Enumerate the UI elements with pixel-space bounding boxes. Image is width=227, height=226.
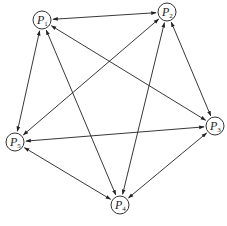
edge-p2-p5 — [23, 19, 158, 135]
edges-layer — [17, 13, 210, 200]
node-p4: P4 — [111, 196, 129, 214]
node-p3: P3 — [206, 117, 224, 135]
edge-p1-p3 — [51, 26, 205, 121]
edge-p1-p4 — [46, 30, 115, 195]
edge-p2-p4 — [123, 23, 165, 195]
network-diagram: P1P2P3P4P5 — [0, 0, 227, 226]
edge-p1-p2 — [53, 13, 156, 20]
edge-p2-p3 — [171, 22, 210, 116]
edge-p3-p4 — [128, 133, 206, 198]
edge-p3-p5 — [26, 127, 204, 141]
node-p1: P1 — [33, 11, 51, 29]
node-p2: P2 — [158, 3, 176, 21]
node-p5: P5 — [6, 133, 24, 151]
edge-p4-p5 — [24, 148, 110, 200]
edge-p1-p5 — [17, 31, 39, 132]
